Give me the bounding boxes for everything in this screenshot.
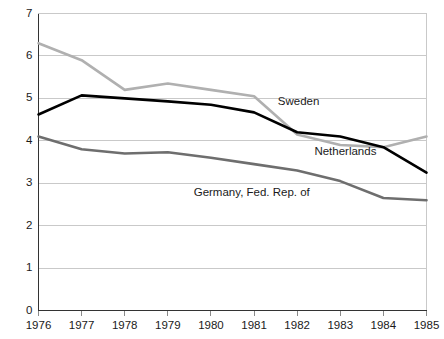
- x-axis-tick-label: 1978: [102, 320, 148, 332]
- series-label-netherlands: Netherlands: [314, 146, 376, 158]
- x-axis-tick-label: 1982: [274, 320, 320, 332]
- series-label-sweden: Sweden: [278, 96, 320, 108]
- y-axis-tick-label: 4: [11, 135, 33, 147]
- series-label-germany-fed-rep-of: Germany, Fed. Rep. of: [194, 187, 310, 199]
- x-axis-tick-label: 1980: [188, 320, 234, 332]
- x-axis-tick-label: 1984: [360, 320, 406, 332]
- x-axis-tick-label: 1981: [231, 320, 277, 332]
- y-axis-tick-label: 7: [11, 8, 33, 20]
- y-axis-tick-label: 1: [11, 262, 33, 274]
- x-axis-tick-label: 1983: [317, 320, 363, 332]
- x-axis-ticks: [39, 311, 427, 317]
- y-axis-tick-label: 3: [11, 177, 33, 189]
- series-lines: [39, 43, 427, 200]
- x-axis-tick-label: 1985: [404, 320, 444, 332]
- x-axis-tick-label: 1977: [59, 320, 105, 332]
- y-axis-tick-label: 5: [11, 92, 33, 104]
- y-axis-tick-label: 2: [11, 220, 33, 232]
- x-axis-tick-label: 1976: [16, 320, 62, 332]
- y-axis-tick-label: 0: [11, 305, 33, 317]
- y-axis-tick-label: 6: [11, 50, 33, 62]
- x-axis-tick-label: 1979: [145, 320, 191, 332]
